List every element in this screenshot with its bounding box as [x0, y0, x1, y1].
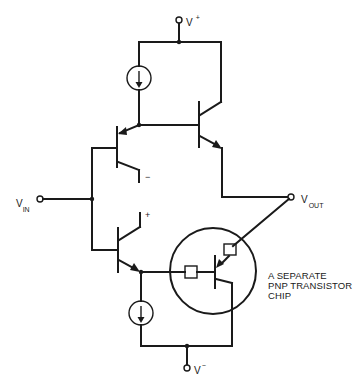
v-minus-label: V− [194, 361, 206, 377]
v-out-label: VOUT [301, 190, 323, 208]
v-plus-terminal [176, 17, 182, 23]
v-plus-label-main: V [186, 17, 193, 28]
separate-chip-annotation: A SEPARATE PNP TRANSISTOR CHIP [268, 271, 352, 301]
v-minus-terminal [184, 365, 190, 371]
v-minus-supply [141, 344, 232, 371]
v-minus-label-sup: − [202, 362, 206, 369]
non-inverting-input-label: + [145, 211, 150, 220]
current-source-upper-icon [127, 42, 151, 127]
v-in-label-sub: IN [23, 206, 30, 213]
v-minus-label-main: V [194, 365, 201, 376]
v-in-label-main: V [16, 198, 23, 209]
v-plus-supply [139, 17, 221, 44]
v-out-label-sub: OUT [309, 202, 324, 209]
annotation-line-3: CHIP [268, 291, 352, 301]
transistor-q2-npn-icon [199, 42, 288, 197]
v-plus-label-sup: + [196, 14, 200, 21]
v-out-label-main: V [301, 194, 308, 205]
v-in-input [37, 148, 94, 250]
current-source-lower-icon [129, 272, 153, 346]
v-plus-label: V+ [186, 13, 200, 29]
v-in-label: VIN [16, 194, 30, 212]
inverting-input-label: − [145, 173, 150, 182]
